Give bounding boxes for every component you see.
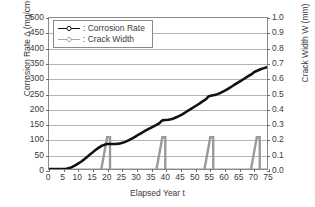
y-axis-right-ticklabel: 0.9: [272, 28, 284, 37]
corrosion-rate-line: [49, 67, 267, 169]
x-tick: [269, 169, 270, 172]
legend-label-corrosion-rate: : Corrosion Rate: [83, 24, 145, 33]
x-axis-ticklabel: 75: [256, 173, 280, 182]
x-axis-title: Elapsed Year t: [0, 188, 315, 198]
y-tick-right: [267, 79, 270, 80]
y-axis-right-ticklabel: 0.8: [272, 44, 284, 53]
crack-width-series: [49, 137, 267, 169]
x-tick: [122, 169, 123, 172]
x-tick: [166, 169, 167, 172]
y-tick-right: [267, 33, 270, 34]
legend-label-crack-width: : Crack Width: [83, 35, 134, 44]
y-axis-right-title: Crack Width W (mm): [300, 0, 310, 118]
x-tick: [137, 169, 138, 172]
y-axis-left-title-superscript: 2: [22, 0, 28, 1]
plot-area: : Corrosion Rate : Crack Width: [48, 17, 268, 170]
x-tick: [78, 169, 79, 172]
legend-key-crack-icon: [57, 35, 81, 44]
y-axis-right-ticklabel: 1.0: [272, 13, 284, 22]
x-tick: [64, 169, 65, 172]
y-axis-right-ticklabel: 0.4: [272, 105, 284, 114]
y-axis-left-ticklabel: 50: [35, 151, 44, 160]
x-tick: [152, 169, 153, 172]
y-axis-left-ticklabel: 450: [30, 28, 44, 37]
y-axis-right-ticklabel: 0.5: [272, 90, 284, 99]
x-tick: [108, 169, 109, 172]
x-tick: [181, 169, 182, 172]
y-tick-right: [267, 64, 270, 65]
y-tick-right: [267, 140, 270, 141]
y-axis-right-ticklabel: 0.2: [272, 135, 284, 144]
y-axis-left-ticklabel: 300: [30, 74, 44, 83]
y-axis-right-ticklabel: 0.3: [272, 120, 284, 129]
y-tick-right: [267, 49, 270, 50]
y-axis-left-ticklabel: 100: [30, 135, 44, 144]
crack-width-spike-2: [157, 137, 166, 169]
chart-legend: : Corrosion Rate : Crack Width: [53, 20, 153, 48]
legend-item-corrosion-rate: : Corrosion Rate: [57, 23, 149, 34]
crack-width-spike-1: [101, 137, 110, 169]
y-axis-left-ticklabel: 150: [30, 120, 44, 129]
y-axis-right-ticklabel: 0.7: [272, 59, 284, 68]
y-tick-right: [267, 125, 270, 126]
y-tick-right: [267, 95, 270, 96]
y-axis-left-ticklabel: 500: [30, 13, 44, 22]
y-axis-left-ticklabel: 200: [30, 105, 44, 114]
y-axis-right-ticklabel: 0.6: [272, 74, 284, 83]
y-tick-right: [267, 110, 270, 111]
y-axis-left-ticklabel: 350: [30, 59, 44, 68]
y-axis-left-ticklabel: 400: [30, 44, 44, 53]
x-tick: [210, 169, 211, 172]
x-tick: [196, 169, 197, 172]
y-tick-right: [267, 18, 270, 19]
crack-width-spike-3: [205, 137, 214, 169]
x-tick: [254, 169, 255, 172]
x-tick: [225, 169, 226, 172]
legend-item-crack-width: : Crack Width: [57, 34, 149, 45]
y-tick-right: [267, 156, 270, 157]
chart-figure: Corrosion Rate Δ (mg/cm2) Crack Width W …: [0, 0, 315, 207]
y-axis-right-ticklabel: 0.1: [272, 151, 284, 160]
x-tick: [240, 169, 241, 172]
corrosion-rate-series: [49, 67, 267, 169]
y-axis-left-ticklabel: 250: [30, 90, 44, 99]
crack-width-spike-4: [251, 137, 260, 169]
x-tick: [49, 169, 50, 172]
legend-key-corrosion-icon: [57, 24, 81, 33]
x-tick: [93, 169, 94, 172]
